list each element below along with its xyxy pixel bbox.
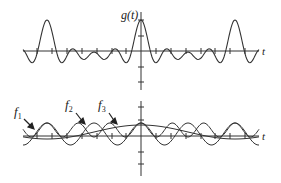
top-t-label: t <box>262 45 266 57</box>
f3-arrowhead-icon <box>111 118 117 124</box>
f2-label: f2 <box>65 97 73 114</box>
arrows <box>24 113 117 129</box>
f1-label: f1 <box>14 104 22 121</box>
fourier-figure: g(t) t t f1 f2 f3 <box>0 0 281 183</box>
f3-label: f3 <box>98 97 106 114</box>
g-label: g(t) <box>121 8 138 22</box>
bottom-plot: t f1 f2 f3 <box>14 97 266 176</box>
bottom-t-label: t <box>262 130 266 142</box>
top-plot: g(t) t <box>23 8 266 90</box>
